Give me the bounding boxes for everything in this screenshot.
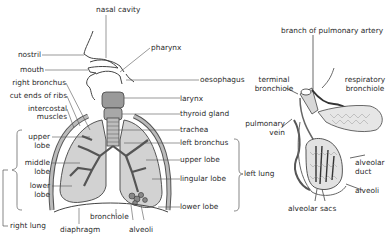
label-alveolar-sacs: alveolar sacs	[288, 205, 336, 213]
left-lung-brace	[234, 139, 243, 211]
label-branch-of-pulmonary-artery: branch of pulmonary artery	[281, 27, 383, 35]
label-respiratory-bronchiole-2: bronchiole	[340, 85, 390, 93]
label-middle-lobe-2: lobe	[0, 168, 50, 176]
label-larynx: larynx	[180, 95, 203, 103]
label-alveoli: alveoli	[129, 226, 153, 234]
label-nasal-cavity: nasal cavity	[96, 6, 140, 14]
label-right-lung: right lung	[10, 222, 46, 230]
label-mouth: mouth	[0, 66, 44, 74]
label-middle-lobe-1: middle	[0, 159, 50, 167]
label-respiratory-bronchiole-1: respiratory	[340, 76, 390, 84]
upper-alveolar-lobe	[318, 105, 382, 131]
label-left-lung: left lung	[244, 170, 274, 178]
label-alveoli-detail: alveoli	[355, 187, 379, 195]
label-diaphragm: diaphragm	[60, 226, 100, 234]
label-terminal-bronchiole-2: bronchiole	[252, 85, 296, 93]
label-pulmonary-vein-2: vein	[240, 129, 285, 137]
label-lower-lobe-right-2: lobe	[0, 191, 50, 199]
label-bronchiole: bronchiole	[90, 213, 129, 221]
larynx-shape	[102, 92, 124, 108]
label-trachea: trachea	[180, 126, 208, 134]
face-profile	[84, 31, 118, 100]
label-alveolar-duct-1: alveolar	[355, 159, 385, 167]
label-pulmonary-vein-1: pulmonary	[240, 120, 285, 128]
label-lower-lobe-left: lower lobe	[180, 203, 218, 211]
label-lingular-lobe: lingular lobe	[180, 175, 226, 183]
label-right-bronchus: right bronchus	[0, 79, 66, 87]
label-left-bronchus: left bronchus	[180, 139, 228, 147]
label-nostril: nostril	[0, 51, 41, 59]
label-upper-lobe-right-1: upper	[0, 133, 50, 141]
label-cut-ends-of-ribs: cut ends of ribs	[0, 92, 67, 100]
label-upper-lobe-right-2: lobe	[0, 142, 50, 150]
label-thyroid-gland: thyroid gland	[180, 110, 229, 118]
label-terminal-bronchiole-1: terminal	[254, 76, 294, 84]
label-lower-lobe-right-1: lower	[0, 182, 50, 190]
label-pharynx: pharynx	[151, 44, 181, 52]
alveolar-sac-shape	[306, 138, 343, 189]
label-alveolar-duct-2: duct	[355, 168, 371, 176]
label-upper-lobe-left: upper lobe	[180, 156, 220, 164]
label-intercostal-muscles-2: muscles	[0, 113, 67, 121]
label-oesophagus: oesophagus	[200, 76, 245, 84]
